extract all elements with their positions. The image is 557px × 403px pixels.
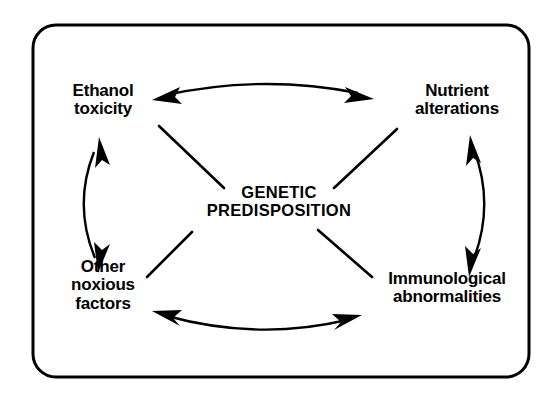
node-label-immunological-abnormalities: Immunological abnormalities (368, 270, 526, 307)
node-label-ethanol-toxicity: Ethanol toxicity (44, 82, 162, 119)
node-label-nutrient-alterations: Nutrient alterations (388, 82, 526, 119)
diagram-canvas: Ethanol toxicity Nutrient alterations Ot… (0, 0, 557, 403)
node-label-genetic-predisposition: GENETIC PREDISPOSITION (181, 183, 377, 220)
node-label-other-noxious-factors: Other noxious factors (44, 258, 162, 313)
